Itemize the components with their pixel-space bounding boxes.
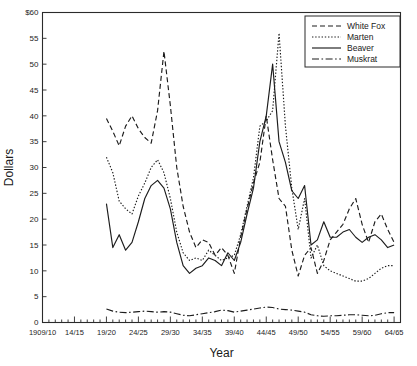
y-tick-label: 20: [30, 215, 39, 224]
x-tick-label: 1909/10: [29, 328, 56, 337]
x-axis-ticks: [43, 317, 401, 323]
y-tick-label: 30: [30, 163, 39, 172]
y-axis-tick-labels: 0510152025303540455055$60: [25, 8, 39, 327]
x-tick-label: 49/50: [289, 328, 308, 337]
y-tick-label: 5: [34, 292, 39, 301]
legend-label-white-fox: White Fox: [347, 21, 386, 31]
y-tick-label: 45: [30, 86, 39, 95]
series-line-muskrat: [106, 307, 394, 316]
x-tick-label: 29/30: [161, 328, 180, 337]
x-tick-label: 54/55: [321, 328, 340, 337]
x-axis-title: Year: [209, 346, 233, 360]
y-tick-label: 15: [30, 241, 39, 250]
y-tick-label: 25: [30, 189, 39, 198]
y-tick-label: 50: [30, 60, 39, 69]
y-tick-label: 10: [30, 267, 39, 276]
chart-legend: White FoxMartenBeaverMuskrat: [305, 16, 400, 67]
chart-canvas: 0510152025303540455055$60 1909/1014/1519…: [0, 0, 417, 366]
series-line-white-fox: [106, 51, 394, 276]
legend-label-marten: Marten: [347, 32, 374, 42]
x-tick-label: 14/15: [65, 328, 84, 337]
y-axis-ticks: [43, 13, 47, 323]
x-tick-label: 34/35: [193, 328, 212, 337]
legend-label-muskrat: Muskrat: [347, 54, 378, 64]
series-line-marten: [106, 33, 394, 281]
x-tick-label: 24/25: [129, 328, 148, 337]
x-axis-tick-labels: 1909/1014/1519/2024/2529/3034/3539/4044/…: [29, 328, 404, 337]
x-tick-label: 19/20: [97, 328, 116, 337]
y-axis-title: Dollars: [2, 149, 16, 186]
y-tick-label: 0: [34, 318, 39, 327]
legend-label-beaver: Beaver: [347, 43, 374, 53]
x-tick-label: 44/45: [257, 328, 276, 337]
x-tick-label: 64/65: [385, 328, 404, 337]
data-series-group: [106, 33, 394, 316]
y-tick-label: 55: [30, 34, 39, 43]
x-tick-label: 59/60: [353, 328, 372, 337]
x-tick-label: 39/40: [225, 328, 244, 337]
y-tick-label: $60: [25, 8, 39, 17]
series-line-beaver: [106, 64, 394, 273]
y-tick-label: 40: [30, 112, 39, 121]
y-tick-label: 35: [30, 137, 39, 146]
fur-price-line-chart: 0510152025303540455055$60 1909/1014/1519…: [0, 0, 417, 366]
